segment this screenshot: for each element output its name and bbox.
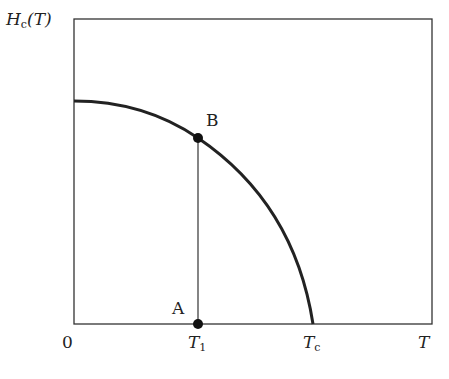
- critical-field-curve: [74, 101, 313, 324]
- x-tick-t1: T1: [188, 334, 206, 353]
- point-a: [193, 319, 203, 329]
- point-a-label: A: [172, 300, 184, 317]
- origin-label: 0: [62, 334, 73, 351]
- diagram-canvas: [0, 0, 449, 379]
- y-axis-label: Hc(T): [6, 11, 52, 30]
- x-tick-tc: Tc: [303, 334, 321, 353]
- plot-frame: [74, 19, 432, 324]
- point-b: [193, 133, 203, 143]
- point-b-label: B: [206, 112, 219, 129]
- x-axis-label: T: [418, 334, 429, 351]
